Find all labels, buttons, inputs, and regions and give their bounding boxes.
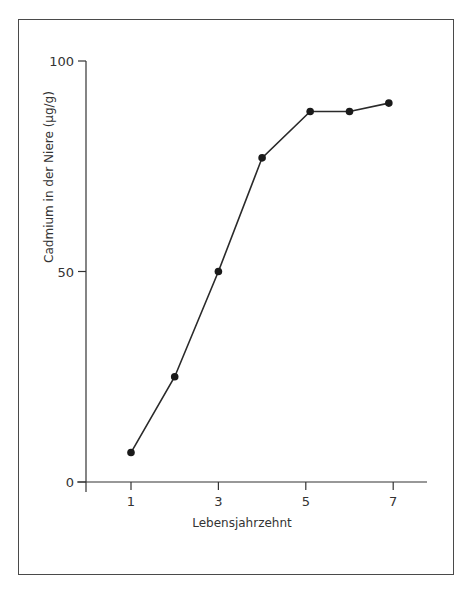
x-tick-label: 7 <box>389 494 397 509</box>
data-point <box>258 154 266 162</box>
data-point <box>306 108 314 116</box>
x-tick-label: 3 <box>214 494 222 509</box>
x-tick-label: 5 <box>302 494 310 509</box>
y-tick-label: 0 <box>66 475 74 490</box>
data-point <box>171 373 179 381</box>
y-tick-label: 50 <box>57 265 74 280</box>
x-tick-label: 1 <box>127 494 135 509</box>
y-tick-label: 100 <box>49 54 74 69</box>
x-ticks: 1357 <box>127 482 397 509</box>
line-chart: 050100 1357 Lebensjahrzehnt Cadmium in d… <box>0 0 462 590</box>
x-axis-title: Lebensjahrzehnt <box>192 516 292 530</box>
data-point <box>215 268 223 276</box>
data-point <box>385 99 393 107</box>
data-point <box>127 449 135 457</box>
caption-cutoff <box>20 582 450 590</box>
data-markers <box>127 99 392 456</box>
data-point <box>346 108 354 116</box>
y-axis-title: Cadmium in der Niere (µg/g) <box>42 91 56 263</box>
